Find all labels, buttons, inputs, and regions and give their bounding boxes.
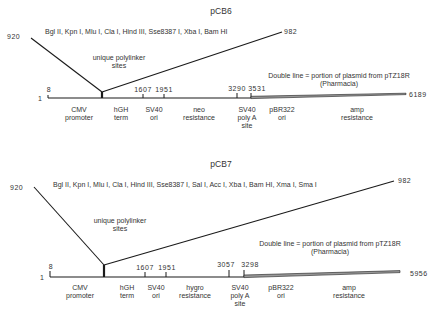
feature-hygro-resistance: hygro resistance — [179, 284, 211, 300]
end-position: 5956 — [410, 270, 428, 278]
restriction-sites-list: Bgl II, Kpn I, Mlu I, Cla I, Hind III, S… — [53, 181, 317, 189]
tick-label: 3531 — [248, 85, 266, 93]
map-title: pCB6 — [210, 7, 231, 15]
tick-label: 8 — [47, 86, 51, 94]
feature-sv40-polya-site: SV40 poly A site — [237, 106, 256, 130]
tick-label: 1607 — [136, 264, 154, 272]
restriction-sites-list: Bgl II, Kpn I, Mlu I, Cla I, Hind III, S… — [45, 28, 227, 36]
tick-label: 1607 — [134, 86, 152, 94]
polylinker-left-position: 920 — [10, 184, 23, 192]
feature-amp-resistance: amp resistance — [341, 106, 373, 122]
polylinker-label: unique polylinker sites — [94, 217, 147, 233]
tick-label: 3298 — [241, 261, 259, 269]
tick-label: 1951 — [158, 264, 176, 272]
tick-label: 3290 — [228, 85, 246, 93]
start-position: 1 — [40, 274, 44, 282]
feature-sv40-ori: SV40 ori — [145, 106, 162, 122]
feature-pbr322-ori: pBR322 ori — [269, 106, 294, 122]
start-position: 1 — [38, 95, 42, 103]
double-line-legend: Double line = portion of plasmid from pT… — [259, 240, 400, 256]
double-line-legend: Double line = portion of plasmid from pT… — [268, 72, 409, 88]
feature-cmv-promoter: CMV promoter — [65, 106, 93, 122]
tick-label: 1951 — [155, 86, 173, 94]
polylinker-label: unique polylinker sites — [93, 54, 146, 70]
end-position: 6189 — [409, 91, 427, 99]
tick-label: 3057 — [217, 261, 235, 269]
polylinker-right-position: 982 — [284, 28, 297, 36]
polylinker-left-position: 920 — [7, 33, 20, 41]
feature-sv40-ori: SV40 ori — [147, 284, 164, 300]
feature-hgh-term: hGH term — [120, 284, 134, 300]
tick-label: 8 — [49, 263, 53, 271]
feature-neo-resistance: neo resistance — [183, 106, 215, 122]
feature-sv40-polya-site: SV40 poly A site — [230, 284, 249, 308]
map-title: pCB7 — [210, 160, 231, 168]
feature-cmv-promoter: CMV promoter — [66, 284, 94, 300]
pcb6-lines — [31, 32, 406, 99]
feature-amp-resistance: amp resistance — [333, 284, 365, 300]
feature-hgh-term: hGH term — [114, 106, 128, 122]
polylinker-right-position: 982 — [398, 177, 411, 185]
feature-pbr322-ori: pBR322 ori — [268, 284, 293, 300]
